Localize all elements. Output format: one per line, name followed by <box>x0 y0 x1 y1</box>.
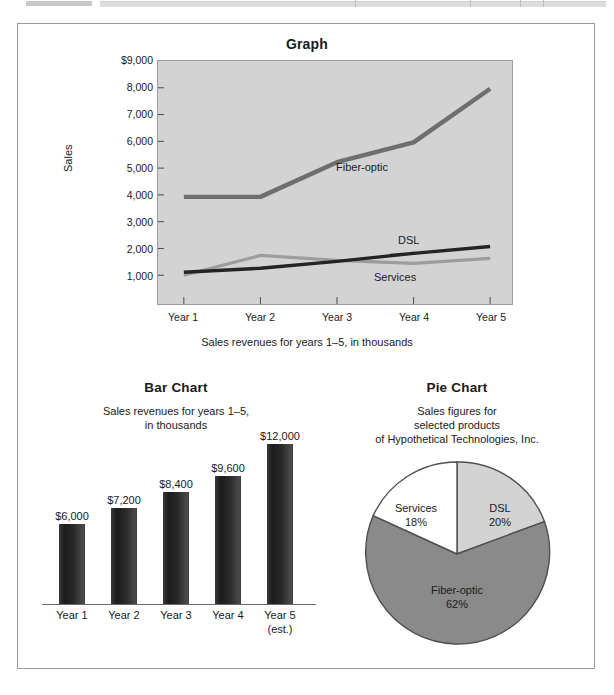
pie-label-value: 62% <box>417 597 497 611</box>
toolbar-tick <box>355 0 356 7</box>
series-label-dsl: DSL <box>398 234 419 246</box>
pie-chart-caption: Sales figures for selected products of H… <box>318 404 596 446</box>
y-tick-label: 1,000 <box>101 271 153 282</box>
x-tick-label: Year 3 <box>305 311 369 323</box>
bar-value-label: $7,200 <box>92 494 156 506</box>
toolbar-tick <box>520 0 521 7</box>
pie-chart-svg <box>362 459 552 649</box>
pie-chart-title: Pie Chart <box>318 380 596 395</box>
bar-chart-section: Bar Chart Sales revenues for years 1–5, … <box>26 374 326 670</box>
bar-rect <box>111 508 137 604</box>
pie-chart-plot: DSL 20% Fiber-optic 62% Services 18% <box>362 459 552 649</box>
pie-label-dsl: DSL 20% <box>470 501 530 529</box>
y-tick-marks <box>158 88 164 275</box>
y-tick-label: 6,000 <box>101 136 153 147</box>
y-tick-label: 8,000 <box>101 82 153 93</box>
bar-x-label-line: (est.) <box>248 622 312 636</box>
pie-caption-line-1: Sales figures for <box>318 404 596 418</box>
bar-x-label: Year 5 (est.) <box>248 608 312 636</box>
y-tick-label: 3,000 <box>101 217 153 228</box>
bar-chart-plot: $6,000 $7,200 $8,400 $9,600 $12,000 <box>48 444 310 604</box>
y-tick-label: 7,000 <box>101 109 153 120</box>
line-graph-section: Graph $9,000 8,000 7,000 6,000 5,000 4,0… <box>18 24 596 364</box>
y-tick-label: 2,000 <box>101 244 153 255</box>
line-graph-caption: Sales revenues for years 1–5, in thousan… <box>18 336 596 348</box>
series-label-services: Services <box>374 271 416 283</box>
line-graph-x-axis-labels: Year 1 Year 2 Year 3 Year 4 Year 5 <box>157 311 513 327</box>
series-line-fiber-optic <box>184 89 490 197</box>
pie-caption-line-3: of Hypothetical Technologies, Inc. <box>318 432 596 446</box>
y-tick-label: 5,000 <box>101 163 153 174</box>
x-tick-label: Year 2 <box>228 311 292 323</box>
line-graph-plot-area: Fiber-optic DSL Services <box>157 60 513 305</box>
pie-label-name: Fiber-optic <box>417 583 497 597</box>
bar-value-label: $6,000 <box>40 510 104 522</box>
bar-chart-x-labels: Year 1 Year 2 Year 3 Year 4 Year 5 (est.… <box>48 608 310 642</box>
figure-page-frame: Graph $9,000 8,000 7,000 6,000 5,000 4,0… <box>17 23 595 669</box>
bar-value-label: $8,400 <box>144 478 208 490</box>
pie-label-services: Services 18% <box>382 501 450 529</box>
line-graph-svg <box>158 61 512 304</box>
bar-value-label: $12,000 <box>248 430 312 442</box>
toolbar-bar <box>100 1 606 7</box>
y-tick-label: $9,000 <box>101 55 153 66</box>
bar-rect <box>59 524 85 604</box>
pie-label-name: DSL <box>470 501 530 515</box>
top-toolbar-strip <box>0 0 614 11</box>
graph-title: Graph <box>18 36 596 52</box>
bar-rect <box>267 444 293 604</box>
toolbar-tick <box>470 0 471 7</box>
bar-caption-line-1: Sales revenues for years 1–5, <box>26 404 326 418</box>
x-tick-label: Year 5 <box>459 311 523 323</box>
y-axis-title: Sales <box>62 144 74 172</box>
toolbar-chip <box>26 1 92 6</box>
bar-x-label-line: Year 5 <box>248 608 312 622</box>
pie-caption-line-2: selected products <box>318 418 596 432</box>
x-tick-label: Year 4 <box>382 311 446 323</box>
series-line-services <box>184 255 490 275</box>
x-tick-marks <box>184 297 490 304</box>
series-label-fiber-optic: Fiber-optic <box>336 161 388 173</box>
x-tick-label: Year 1 <box>151 311 215 323</box>
pie-label-value: 18% <box>382 515 450 529</box>
bottom-charts-row: Bar Chart Sales revenues for years 1–5, … <box>18 374 596 670</box>
pie-chart-section: Pie Chart Sales figures for selected pro… <box>318 374 596 670</box>
bar-chart-caption: Sales revenues for years 1–5, in thousan… <box>26 404 326 432</box>
pie-label-name: Services <box>382 501 450 515</box>
bar-rect <box>163 492 189 604</box>
pie-label-fiber-optic: Fiber-optic 62% <box>417 583 497 611</box>
pie-label-value: 20% <box>470 515 530 529</box>
bar-rect <box>215 476 241 604</box>
bar-value-label: $9,600 <box>196 462 260 474</box>
y-tick-label: 4,000 <box>101 190 153 201</box>
bar-chart-baseline <box>42 604 316 605</box>
bar-chart-title: Bar Chart <box>26 380 326 395</box>
toolbar-tick <box>543 0 544 7</box>
line-graph-y-axis-labels: $9,000 8,000 7,000 6,000 5,000 4,000 3,0… <box>95 60 153 305</box>
